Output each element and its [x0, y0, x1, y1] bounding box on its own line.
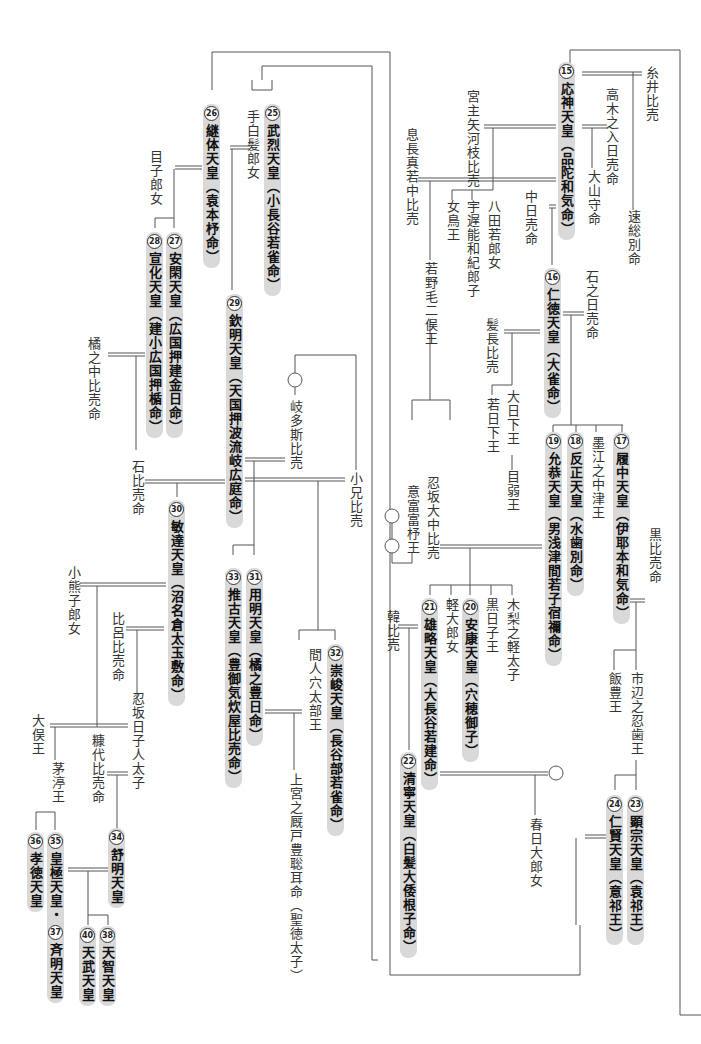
person-kasuga-no-oiratsume: 春日大郎女	[528, 818, 542, 888]
person-okinaga-mawakanaka-hime: 息長真若中比売	[404, 128, 418, 226]
person-oguma-no-iratsume: 小熊子郎女	[66, 566, 80, 636]
emperor-30[interactable]: 30敏達天皇（沼名倉太玉敷命）	[168, 500, 185, 706]
emperor-28[interactable]: 28宣化天皇（建小広国押楯命）	[146, 232, 163, 438]
person-kaminaga-hime: 髪長比売	[484, 318, 498, 374]
emperor-33[interactable]: 33推古天皇（豊御気炊屋比売命）	[225, 568, 242, 788]
person-menoko: 目子郎女	[148, 150, 162, 206]
emperor-34[interactable]: 34舒明天皇	[108, 828, 125, 908]
person-hashihito-no-anahobe: 間人穴太部王	[307, 648, 321, 732]
person-hayabusawake: 速総別命	[626, 210, 640, 266]
person-kitashi-hime: 岐多斯比売	[288, 400, 302, 470]
emperor-15[interactable]: 15応神天皇（品陀和気命）	[558, 62, 575, 240]
emperor-31[interactable]: 31用明天皇（橘之豊日命）	[246, 568, 263, 746]
person-karu-no-oiratsume: 軽大郎女	[444, 598, 458, 654]
person-tashiraka: 手白髪郎女	[245, 110, 259, 180]
person-karahime: 韓比売	[385, 610, 399, 652]
person-tachibana-no-nakatsu: 橘之中比売命	[86, 337, 100, 421]
person-kurohiko: 黒日子王	[484, 598, 498, 654]
emperor-24[interactable]: 24仁賢天皇（意祁王）	[606, 795, 623, 945]
person-nakatsuhime: 中日売命	[523, 190, 537, 246]
emperor-36[interactable]: 36孝徳天皇	[27, 832, 44, 912]
emperor-35-37[interactable]: 35皇極天皇・37斉明天皇	[47, 832, 64, 1003]
person-oane-no-kimi: 小兄比売	[348, 472, 362, 528]
emperor-17[interactable]: 17履中天皇（伊耶本和気命）	[613, 432, 630, 624]
person-oshisaka-no-hikohito: 忍坂日子人太子	[130, 692, 144, 790]
emperor-21[interactable]: 21雄略天皇（大長谷若建命）	[421, 598, 438, 790]
person-takaki-no-irihi-uri: 高木之入日売命	[604, 88, 618, 186]
emperor-16[interactable]: 16仁徳天皇（大雀命）	[544, 268, 561, 418]
person-iitoyo: 飯豊王	[607, 672, 621, 714]
person-omata: 大俣王	[30, 714, 44, 756]
emperor-18[interactable]: 18反正天皇（水歯別命）	[567, 432, 584, 596]
person-kurohime: 黒比売命	[647, 528, 661, 584]
person-ofudo: 意富富杼王	[405, 485, 419, 555]
person-iwa-no-hime: 石之日売命	[584, 270, 598, 340]
emperor-25[interactable]: 25武烈天皇（小長谷若雀命）	[264, 104, 281, 296]
person-yata-no-wakiiratsume: 八田若郎女	[486, 200, 500, 270]
emperor-20[interactable]: 20安康天皇（穴穂御子）	[462, 598, 479, 762]
person-osakanoonakatsu-hime: 忍坂大中比売	[425, 476, 439, 560]
emperor-40[interactable]: 40天武天皇	[79, 926, 96, 1006]
person-wakakusaka: 若日下王	[485, 398, 499, 454]
person-ichinobe-no-oshiha: 市辺之忍歯王	[629, 672, 643, 756]
person-okusaka: 大日下王	[505, 390, 519, 446]
emperor-23[interactable]: 23顕宗天皇（袁祁王）	[627, 795, 644, 945]
emperor-22[interactable]: 22清寧天皇（白髪大倭根子命）	[400, 752, 417, 958]
person-ishi-hime: 石比売命	[130, 460, 144, 516]
person-shotoku-taishi: 上宮之厩戸豊聡耳命（聖徳太子）	[288, 773, 302, 983]
person-chinu: 茅渟王	[50, 762, 64, 804]
person-nukate-hime: 糠代比売命	[90, 734, 104, 804]
person-miyanushi-yakawae-hime: 宮主矢河枝比売	[465, 90, 479, 188]
person-uji-no-wakiiratsuko: 宇遅能和紀郎子	[465, 200, 479, 298]
emperor-26[interactable]: 26継体天皇（袁本杼命）	[203, 104, 220, 268]
emperor-32[interactable]: 32崇峻天皇（長谷部若雀命）	[327, 644, 344, 836]
person-itoi-hime: 糸井比売	[644, 66, 658, 122]
person-oyamamori: 大山守命	[586, 170, 600, 226]
person-hiro-hime: 比呂比売命	[110, 612, 124, 682]
person-kinashi-no-karu: 木梨之軽太子	[505, 598, 519, 682]
genealogy-diagram: 15応神天皇（品陀和気命） 16仁徳天皇（大雀命） 17履中天皇（伊耶本和気命）…	[0, 0, 701, 1044]
person-medori: 女鳥王	[445, 200, 459, 242]
emperor-29[interactable]: 29欽明天皇（天国押波流岐広庭命）	[226, 294, 243, 528]
person-mayowa: 目弱王	[505, 470, 519, 512]
emperor-27[interactable]: 27安閑天皇（広国押建金日命）	[166, 232, 183, 438]
emperor-19[interactable]: 19允恭天皇（男浅津間若子宿禰命）	[545, 432, 562, 666]
emperor-38[interactable]: 38天智天皇	[99, 926, 116, 1006]
person-wakanuke-futamata: 若野毛二俣王	[423, 262, 437, 346]
person-suminoe-no-nakatsu: 墨江之中津王	[590, 436, 604, 520]
